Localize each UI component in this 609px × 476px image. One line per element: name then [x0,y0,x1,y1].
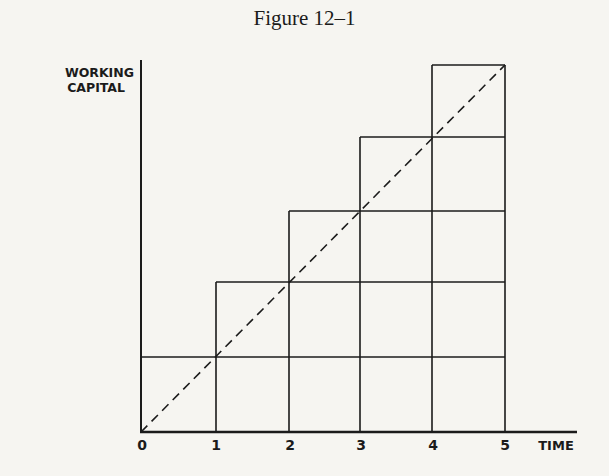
x-axis-label: TIME [538,438,574,453]
y-axis-label-line2: CAPITAL [67,80,125,95]
period-lines [216,65,505,432]
y-axis-label-line1: WORKING [65,65,134,80]
x-tick-2: 2 [285,437,295,453]
level-lines [141,65,505,357]
step-diagram: WORKING CAPITAL 0 1 2 3 4 5 TIME [0,0,609,476]
x-tick-4: 4 [428,437,438,453]
x-tick-3: 3 [356,437,366,453]
x-tick-5: 5 [500,437,510,453]
x-tick-1: 1 [211,437,221,453]
dashed-diagonal [141,65,505,432]
x-tick-0: 0 [137,437,147,453]
